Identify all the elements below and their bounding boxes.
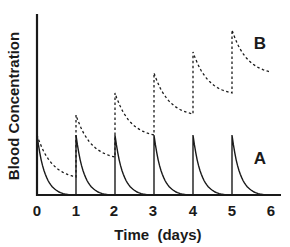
y-axis-label: Blood Concentration bbox=[5, 32, 22, 180]
x-tick-0: 0 bbox=[33, 202, 41, 219]
x-tick-1: 1 bbox=[72, 202, 80, 219]
series-b-label: B bbox=[254, 34, 266, 53]
series-a-label: A bbox=[254, 149, 266, 168]
series-a-line bbox=[37, 135, 265, 195]
x-tick-5: 5 bbox=[228, 202, 236, 219]
x-tick-6: 6 bbox=[267, 202, 275, 219]
x-tick-4: 4 bbox=[189, 202, 198, 219]
x-axis-label: Time (days) bbox=[114, 226, 201, 243]
x-tick-2: 2 bbox=[110, 202, 118, 219]
series-a-path bbox=[37, 135, 265, 195]
x-tick-labels: 0 1 2 3 4 5 6 bbox=[33, 202, 275, 219]
x-tick-3: 3 bbox=[149, 202, 157, 219]
chart: Blood Concentration 0 1 2 3 4 5 6 Time (… bbox=[0, 0, 290, 247]
